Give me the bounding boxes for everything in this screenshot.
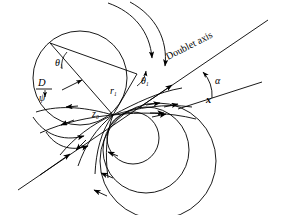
doublet-axis-label: Doublet axis [164,29,214,62]
x-axis-line [178,82,262,109]
outer-arc-group [108,2,165,66]
x-axis-label: x [205,94,211,105]
doublet-strength-pointer [62,80,82,90]
streamline-arrows-left [61,106,86,150]
construction-circle [33,31,127,125]
radius-label: r1 [110,85,117,97]
doublet-strength-denominator: ψ [39,92,46,103]
theta-upper-label: θ1 [55,57,63,69]
doublet-strength-numerator: D [37,77,46,88]
doublet-strength-label: D ψ [36,77,52,103]
alpha-label: α [215,75,221,86]
theta-origin-label: θ1 [141,75,149,87]
diagram-canvas: θ1 θ1 D ψ r1 z0 α x Doublet axis [0,0,282,215]
doublet-flow-figure: θ1 θ1 D ψ r1 z0 α x Doublet axis [0,0,282,215]
tangent-circle-group [100,103,216,215]
doublet-axis-arrow-lower [40,154,70,175]
tangent-circle-middle [103,107,189,193]
streamline-group-left [36,108,113,178]
origin-point-label: z0 [91,108,99,120]
inscribed-triangle [50,43,137,115]
